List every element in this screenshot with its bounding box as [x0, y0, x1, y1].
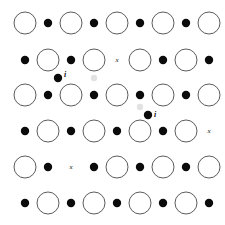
anion-circle	[198, 12, 220, 34]
cation-dot	[182, 163, 190, 171]
vacancy-layer: xxx	[68, 56, 211, 171]
cation-dot	[136, 19, 144, 27]
anion-circle	[152, 12, 174, 34]
cation-dot	[44, 19, 52, 27]
lattice-canvas: xxx ii	[0, 0, 225, 225]
crystal-lattice-defect-diagram: xxx ii	[0, 0, 225, 225]
cation-dot	[136, 91, 144, 99]
anion-circle	[198, 84, 220, 106]
anion-circle	[37, 192, 59, 214]
anion-circle	[60, 12, 82, 34]
cation-dot	[44, 163, 52, 171]
anion-circle	[175, 192, 197, 214]
anion-circle	[152, 84, 174, 106]
cation-dot	[21, 199, 29, 207]
cation-dot	[90, 91, 98, 99]
vacancy-x-label: x	[114, 56, 119, 64]
anion-circle	[83, 192, 105, 214]
interstitial-dot	[54, 74, 62, 82]
cation-dot	[136, 163, 144, 171]
anion-circle	[37, 120, 59, 142]
anion-circle	[60, 84, 82, 106]
cation-dot	[205, 199, 213, 207]
anion-circle	[14, 156, 36, 178]
anion-circle	[37, 49, 59, 71]
cation-dot	[21, 56, 29, 64]
vacancy-x-label: x	[206, 127, 211, 135]
anion-circle	[175, 120, 197, 142]
ghost-mark	[91, 75, 97, 81]
anion-circle	[198, 156, 220, 178]
cation-dot	[67, 127, 75, 135]
anion-circle	[106, 84, 128, 106]
cation-dot	[44, 91, 52, 99]
anion-circle	[83, 120, 105, 142]
cation-dot	[67, 56, 75, 64]
anion-layer	[14, 12, 220, 214]
anion-circle	[14, 12, 36, 34]
anion-circle	[106, 12, 128, 34]
anion-circle	[152, 156, 174, 178]
anion-circle	[175, 49, 197, 71]
vacancy-x-label: x	[68, 163, 73, 171]
cation-dot	[21, 127, 29, 135]
anion-circle	[129, 192, 151, 214]
cation-dot	[205, 56, 213, 64]
cation-dot	[113, 127, 121, 135]
cation-dot	[67, 199, 75, 207]
cation-dot	[90, 163, 98, 171]
cation-dot	[159, 127, 167, 135]
cation-dot	[159, 56, 167, 64]
anion-circle	[129, 120, 151, 142]
interstitial-i-label: i	[154, 110, 157, 119]
cation-dot	[90, 19, 98, 27]
cation-dot	[159, 199, 167, 207]
cation-dot	[182, 19, 190, 27]
cation-dot	[182, 91, 190, 99]
cation-layer	[21, 19, 213, 207]
cation-dot	[113, 199, 121, 207]
ghost-mark	[137, 104, 143, 110]
interstitial-dot	[144, 111, 152, 119]
anion-circle	[129, 49, 151, 71]
anion-circle	[106, 156, 128, 178]
anion-circle	[83, 49, 105, 71]
interstitial-i-label: i	[64, 70, 67, 79]
anion-circle	[14, 84, 36, 106]
